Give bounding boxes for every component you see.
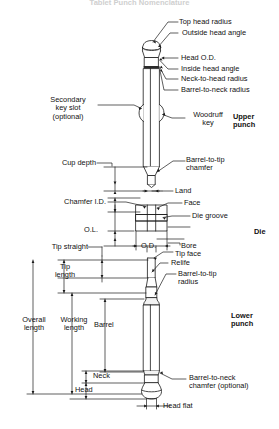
dim-ol [104, 205, 136, 246]
label-neck: Neck [93, 372, 110, 380]
label-tip-length: Tip length [44, 263, 86, 280]
label-top-head-radius: Top head radius [179, 18, 232, 26]
lower-punch-geometry [142, 258, 162, 399]
dim-cup-depth [97, 163, 147, 194]
label-head: Head [75, 386, 93, 394]
label-die-groove: Die groove [192, 212, 228, 220]
figure-canvas: Tablet Punch Nomenclature [0, 0, 279, 429]
dim-land [143, 190, 173, 193]
dim-working-length [71, 293, 74, 394]
label-woodruff-key: Woodruff key [186, 111, 230, 128]
label-ol: O.L. [84, 226, 98, 234]
label-working-length: Working length [51, 316, 97, 333]
label-neck-to-head-radius: Neck-to-head radius [181, 75, 248, 83]
leader-barrel-to-tip-chamfer [157, 161, 185, 172]
label-face: Face [184, 199, 200, 207]
label-secondary-key-slot: Secondary key slot (optional) [38, 96, 98, 121]
label-chamfer-id: Chamfer I.D. [28, 198, 106, 206]
label-outside-head-angle: Outside head angle [182, 29, 246, 37]
label-barrel-to-tip-chamfer: Barrel-to-tip chamfer [186, 156, 225, 173]
label-cup-depth: Cup depth [34, 159, 96, 167]
label-overall-length: Overall length [12, 316, 56, 333]
label-barrel-to-tip-radius: Barrel-to-tip radius [178, 270, 217, 287]
label-od: O.D. [141, 242, 156, 250]
leader-barrel-to-neck-chamfer [160, 371, 186, 379]
label-relife: Relife [171, 259, 190, 267]
label-tip-straight: Tip straight [28, 243, 88, 251]
section-label-upper-punch: Upper punch [233, 113, 255, 130]
upper-punch-geometry [139, 41, 164, 188]
label-barrel-to-neck-chamfer: Barrel-to-neck chamfer (optional) [189, 374, 249, 391]
label-head-od: Head O.D. [181, 54, 216, 62]
label-barrel: Barrel [94, 321, 114, 329]
section-label-lower-punch: Lower punch [231, 312, 253, 329]
label-head-flat: Head flat [163, 402, 193, 410]
dim-neck [82, 371, 144, 383]
die-geometry [136, 205, 167, 231]
label-land: Land [175, 187, 191, 195]
label-barrel-to-neck-radius: Barrel-to-neck radius [181, 86, 250, 94]
dim-barrel [100, 299, 144, 372]
section-label-die: Die [254, 228, 266, 236]
label-inside-head-angle: Inside head angle [181, 65, 239, 73]
